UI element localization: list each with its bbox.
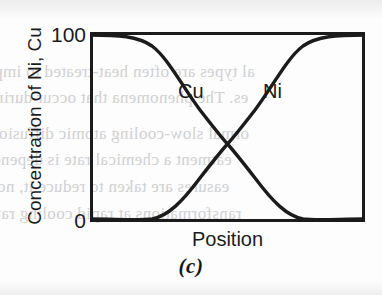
y-axis-tick-label-0: 0 bbox=[74, 210, 86, 231]
figure-caption: (c) bbox=[0, 254, 382, 279]
series-label-cu: Cu bbox=[178, 80, 204, 103]
curve-cu bbox=[90, 35, 365, 220]
x-axis-title: Position bbox=[90, 228, 365, 251]
figure-container: al types are often heat-treated to imp e… bbox=[0, 0, 382, 295]
curve-ni bbox=[90, 35, 365, 220]
y-axis-title: Concentration of Ni, Cu bbox=[24, 21, 46, 231]
scan-top-band bbox=[0, 0, 382, 18]
scan-bottom-band bbox=[0, 281, 382, 295]
concentration-curves bbox=[90, 32, 365, 222]
series-label-ni: Ni bbox=[263, 80, 282, 103]
y-axis-tick-label-100: 100 bbox=[51, 24, 86, 45]
